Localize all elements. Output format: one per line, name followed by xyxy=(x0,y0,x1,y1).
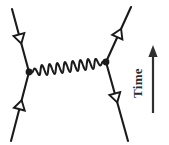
left-vertex xyxy=(26,69,33,76)
right-vertex xyxy=(103,59,110,66)
time-axis-label: Time xyxy=(130,60,146,106)
feynman-diagram-figure: Time xyxy=(0,0,169,145)
